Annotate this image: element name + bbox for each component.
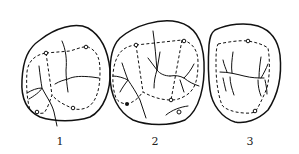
tooth-3-groove	[258, 80, 261, 96]
tooth-1-pit	[84, 45, 88, 49]
panel-label-3: 3	[247, 135, 254, 148]
tooth-3-groove	[259, 57, 261, 78]
tooth-1-pit	[71, 106, 75, 110]
tooth-3-groove	[223, 60, 227, 72]
tooth-1-groove	[27, 88, 42, 99]
tooth-2-pit-filled	[125, 102, 129, 106]
tooth-2-groove	[184, 64, 194, 78]
tooth-2	[110, 21, 204, 125]
panel-label-1: 1	[57, 135, 64, 148]
tooth-2-pit	[177, 110, 181, 114]
tooth-2-inner-ridge	[171, 40, 182, 100]
tooth-3-groove	[261, 64, 268, 78]
diagram-canvas	[0, 0, 299, 154]
tooth-1-groove	[55, 76, 99, 84]
tooth-2-inner-ridge	[136, 45, 143, 92]
tooth-2-pit	[169, 98, 173, 102]
tooth-3-groove	[220, 72, 264, 78]
tooth-2-groove	[153, 31, 170, 76]
tooth-2-pit	[134, 43, 138, 47]
tooth-3-groove	[230, 77, 234, 95]
tooth-1-pit	[35, 110, 39, 114]
tooth-1-groove	[62, 41, 68, 92]
tooth-2-groove	[157, 52, 160, 70]
tooth-1-pit	[44, 51, 48, 55]
tooth-3	[208, 24, 280, 123]
tooth-1-inner-ridge	[46, 53, 52, 95]
tooth-2-outline	[110, 21, 204, 125]
tooth-3-pit	[253, 109, 257, 113]
tooth-3-groove	[232, 52, 233, 73]
panel-label-2: 2	[152, 135, 159, 148]
tooth-2-pit	[182, 39, 186, 43]
tooth-3-pit	[246, 39, 250, 43]
tooth-2-groove	[180, 80, 184, 92]
tooth-3-outline	[208, 24, 280, 123]
tooth-1	[22, 26, 110, 126]
tooth-3-groove	[223, 78, 226, 91]
tooth-2-groove	[148, 58, 157, 88]
